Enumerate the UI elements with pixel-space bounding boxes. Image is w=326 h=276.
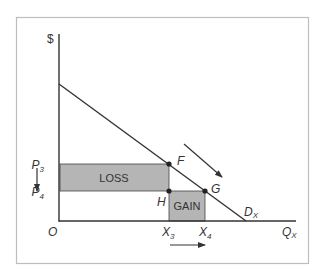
p3-label: P3 — [32, 158, 45, 174]
point-f — [166, 161, 171, 166]
point-h-label: H — [157, 195, 166, 209]
point-h — [166, 188, 171, 193]
x4-label: X4 — [198, 225, 212, 241]
demand-label: DX — [244, 205, 259, 220]
loss-label: LOSS — [99, 172, 128, 184]
gain-label: GAIN — [174, 200, 201, 212]
origin-label: O — [48, 225, 57, 239]
p4-label: P4 — [32, 185, 45, 201]
welfare-diagram: $ O P3 P4 X3 X4 QX DX F G H LOSS GAIN — [0, 0, 326, 276]
x3-label: X3 — [161, 225, 175, 241]
point-f-label: F — [177, 154, 185, 168]
y-axis-label: $ — [47, 32, 54, 46]
point-g — [202, 188, 207, 193]
point-g-label: G — [211, 182, 220, 196]
demand-curve — [59, 84, 246, 221]
movement-along-demand-arrow-icon — [184, 144, 222, 177]
x-axis-label: QX — [282, 225, 297, 240]
